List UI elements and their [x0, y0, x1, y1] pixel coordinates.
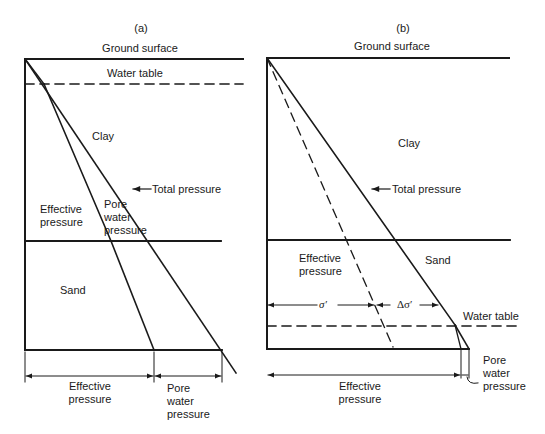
sigma-prime-label: σ′ [319, 298, 327, 311]
panel-a-dim-pore-water-pressure-label: Pore water pressure [167, 382, 210, 421]
panel-b-total-pressure-label: Total pressure [392, 183, 461, 196]
panel-a-dim-effective-pressure-label: Effective pressure [60, 380, 120, 406]
panel-a-total-pressure-label: Total pressure [152, 183, 221, 196]
panel-b-clay-label: Clay [398, 137, 420, 150]
panel-b-dim-effective-pressure-label: Effective pressure [330, 380, 390, 406]
panel-b-effective-pressure-label: Effective pressure [299, 252, 342, 278]
panel-a-ground-surface-label: Ground surface [90, 42, 190, 55]
soil-pressure-diagram: (a) Ground surface Water table Clay Tota… [0, 0, 545, 434]
panel-a-clay-label: Clay [92, 130, 114, 143]
panel-a-pore-water-pressure-label: Pore water pressure [104, 198, 147, 237]
panel-b-sand-label: Sand [425, 254, 451, 267]
panel-b-dim-pore-water-pressure-label: Pore water pressure [483, 354, 526, 393]
panel-b-ground-surface-label: Ground surface [342, 40, 442, 53]
delta-sigma-prime-label: Δσ′ [397, 298, 412, 311]
panel-a-sand-label: Sand [60, 284, 86, 297]
panel-a-title: (a) [126, 22, 156, 35]
panel-b-lines [267, 58, 518, 383]
panel-b-title: (b) [388, 22, 418, 35]
panel-b-water-table-label: Water table [463, 310, 519, 323]
panel-a-effective-pressure-label: Effective pressure [40, 203, 83, 229]
panel-a-water-table-label: Water table [100, 67, 170, 80]
